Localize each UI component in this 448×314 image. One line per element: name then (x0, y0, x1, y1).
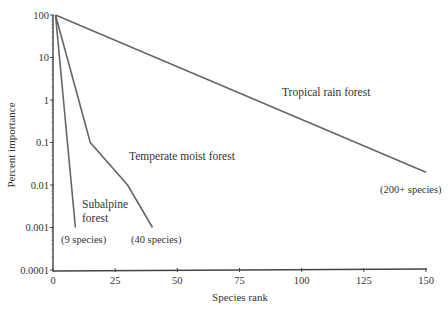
chart-svg: 1001010.10.010.0010.0001 025507510012515… (0, 0, 448, 314)
y-axis-title: Percent importance (5, 102, 17, 187)
note-tropical: (200+ species) (380, 184, 442, 196)
y-ticks: 1001010.10.010.0010.0001 (20, 10, 54, 276)
species-rank-chart: 1001010.10.010.0010.0001 025507510012515… (0, 0, 448, 314)
y-tick-label: 0.001 (25, 222, 49, 233)
x-axis-title: Species rank (212, 291, 268, 303)
y-tick-label: 1 (44, 95, 49, 106)
series-lines (56, 15, 427, 228)
note-subalpine: (9 species) (61, 234, 107, 246)
series-line-subalpine-forest (56, 15, 76, 228)
series-line-tropical-rain-forest (56, 15, 427, 172)
y-tick-label: 0.0001 (20, 265, 49, 276)
x-tick-label: 25 (110, 275, 121, 286)
x-tick-label: 50 (172, 275, 183, 286)
x-tick-label: 125 (356, 275, 372, 286)
y-tick-label: 100 (33, 10, 49, 21)
y-tick-label: 0.01 (31, 180, 49, 191)
note-temperate: (40 species) (131, 234, 182, 246)
label-temperate: Temperate moist forest (129, 150, 236, 163)
y-tick-label: 0.1 (36, 137, 49, 148)
label-subalpine-2: forest (82, 212, 109, 224)
series-line-temperate-moist-forest (56, 15, 153, 228)
label-subalpine-1: Subalpine (82, 198, 128, 211)
x-tick-label: 100 (294, 275, 310, 286)
x-tick-label: 75 (234, 275, 245, 286)
x-tick-label: 0 (50, 275, 55, 286)
label-tropical: Tropical rain forest (282, 86, 371, 99)
x-tick-label: 150 (418, 275, 434, 286)
y-tick-label: 10 (39, 52, 50, 63)
